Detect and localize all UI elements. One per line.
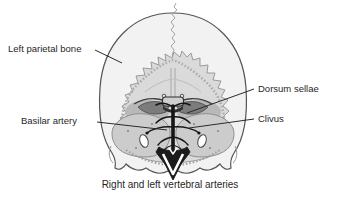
figure-canvas: Left parietal bone Dorsum sellae Clivus … — [0, 0, 340, 201]
label-left-parietal-bone: Left parietal bone — [8, 43, 81, 54]
label-vertebral-arteries-caption: Right and left vertebral arteries — [0, 179, 340, 190]
label-clivus: Clivus — [258, 113, 284, 124]
label-dorsum-sellae: Dorsum sellae — [258, 83, 319, 94]
skull-diagram — [0, 0, 340, 201]
label-basilar-artery: Basilar artery — [21, 115, 77, 126]
